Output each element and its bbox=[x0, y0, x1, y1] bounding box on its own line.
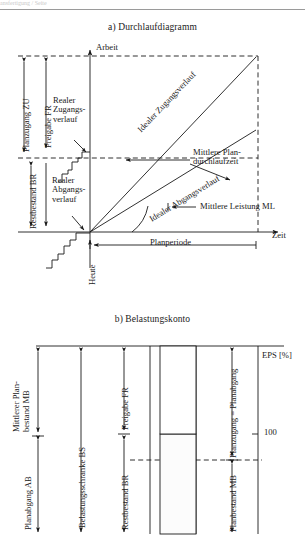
figure-stage: ansfertigung / Seite a) Durchlaufdiagram… bbox=[0, 0, 305, 535]
dim-label-b-mittlerer-planbestand: Mittlerer Plan- bestand MB bbox=[12, 340, 31, 432]
leader-realer-abgangsverlauf bbox=[72, 216, 84, 230]
stair-realer-abgangsverlauf bbox=[46, 233, 90, 268]
axis-label-zeit: Zeit bbox=[272, 231, 286, 240]
arc-mittlere-leistung bbox=[132, 206, 148, 232]
leader-realer-zugangsverlauf bbox=[74, 140, 86, 152]
load-box-filled bbox=[160, 434, 196, 534]
label-heute: Heute bbox=[88, 264, 97, 285]
b-mittlerer-planbestand-line2: bestand MB bbox=[21, 390, 31, 432]
dim-label-planzugang-zu: Planzugang ZU bbox=[22, 98, 31, 152]
label-realer-zugangsverlauf: Realer Zugangs- verlauf bbox=[53, 96, 97, 124]
dim-label-freigabe-fr: Freigabe FR bbox=[44, 105, 53, 148]
dim-label-restbestand-br: Restbestand BR bbox=[29, 174, 38, 229]
load-box-empty bbox=[160, 346, 196, 434]
dim-label-b-planbestand: Planbestand MB bbox=[229, 475, 238, 532]
dim-label-b-freigabe: Freigabe FR bbox=[121, 387, 130, 430]
label-realer-abgangsverlauf: Realer Abgangs- verlauf bbox=[52, 176, 96, 204]
label-mittlere-plandurchlaufzeit: Mittlere Plan- durchlaufzeit bbox=[193, 148, 255, 167]
dim-label-b-planzugang-planabgang: Planzugang = Planabgang bbox=[229, 369, 238, 458]
dim-label-b-planabgang: Planabgang AB bbox=[24, 476, 33, 530]
axis-label-b-eps: EPS [%] bbox=[262, 351, 292, 360]
tick-label-b-100: 100 bbox=[264, 428, 277, 437]
dim-label-b-belastungsschranke: Belastungsschranke BS bbox=[78, 447, 87, 528]
label-mittlere-leistung-ml: Mittlere Leistung ML bbox=[200, 202, 275, 211]
dim-label-b-restbestand: Restbestand BR bbox=[121, 475, 130, 530]
line-idealer-abgangsverlauf bbox=[90, 130, 256, 232]
axis-label-arbeit: Arbeit bbox=[96, 43, 118, 52]
realer-abgangsverlauf-line3: verlauf bbox=[52, 194, 76, 204]
mittlere-plandurchlaufzeit-line2: durchlaufzeit bbox=[193, 156, 238, 166]
b-mittlerer-planbestand-line1: Mittlerer Plan- bbox=[11, 381, 21, 432]
dim-label-planperiode: Planperiode bbox=[150, 238, 191, 247]
realer-zugangsverlauf-line3: verlauf bbox=[53, 114, 77, 124]
diagram-vector-layer bbox=[0, 0, 305, 535]
